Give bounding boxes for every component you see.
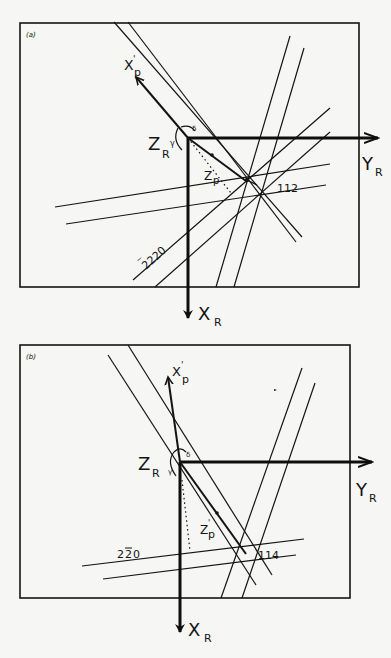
svg-text:X: X xyxy=(188,619,200,640)
svg-text:Z: Z xyxy=(200,523,208,537)
panel-a-delta-label: δ xyxy=(192,125,196,133)
svg-text:2: 2 xyxy=(117,548,124,561)
panel-b-zp-dot xyxy=(215,511,219,515)
svg-text:0: 0 xyxy=(133,548,140,561)
panel-a-xp-vector xyxy=(136,77,188,138)
panel-b-delta-arc xyxy=(174,449,186,452)
panel-b-xr-label: X R xyxy=(188,619,212,645)
svg-text:R: R xyxy=(204,632,212,645)
panel-a-zr-label: Z R xyxy=(148,133,170,161)
panel-b-dotted-line xyxy=(182,480,190,551)
panel-b-tag: (b) xyxy=(26,353,36,361)
panel-b-zr-label: Z R xyxy=(138,453,160,480)
panel-b-gamma-label: γ xyxy=(168,468,172,476)
panel-b-stray-mark xyxy=(274,389,277,391)
svg-text:': ' xyxy=(133,54,135,64)
svg-text:R: R xyxy=(375,166,383,179)
svg-text:p: p xyxy=(182,373,189,386)
panel-b-delta-label: δ xyxy=(186,451,190,459)
panel-b-reflection-114: 114 xyxy=(258,549,279,562)
svg-text:p: p xyxy=(213,175,219,186)
panel-a-xr-label: X R xyxy=(198,303,222,329)
panel-b-yr-label: Y R xyxy=(355,479,377,505)
svg-text:Y: Y xyxy=(361,153,374,174)
svg-text:Y: Y xyxy=(355,479,368,500)
panel-a-xp-label: X ' p xyxy=(124,54,141,79)
panel-b-reflection-220: 2 2 0 xyxy=(117,548,140,561)
panel-b-xp-label: X ' p xyxy=(172,360,189,386)
svg-text:Z: Z xyxy=(148,133,160,154)
svg-text:Z: Z xyxy=(138,453,150,474)
svg-text:R: R xyxy=(369,492,377,505)
panel-a-zp-dot xyxy=(210,153,214,157)
panel-a-kikuchi-lines xyxy=(55,22,330,287)
svg-text:R: R xyxy=(162,148,170,161)
svg-text:X: X xyxy=(172,364,181,379)
panel-a-yr-label: Y R xyxy=(361,153,383,179)
panel-a-reflection-112: 112 xyxy=(277,182,298,195)
panel-a-gamma-label: γ xyxy=(170,139,175,148)
svg-text:': ' xyxy=(208,519,210,528)
panel-a-reflection-220: ‾ 2 220 xyxy=(136,241,169,273)
svg-text:': ' xyxy=(181,360,183,370)
svg-text:p: p xyxy=(208,528,215,541)
svg-text:X: X xyxy=(198,303,210,324)
panel-a-tag: (a) xyxy=(26,31,36,39)
svg-text:p: p xyxy=(134,66,141,79)
panel-b-zp-label: Z ' p xyxy=(200,519,215,541)
svg-text:Z: Z xyxy=(204,169,212,183)
svg-text:R: R xyxy=(214,316,222,329)
svg-text:2: 2 xyxy=(125,548,132,561)
panel-b: (b) γ δ X ' p Z R xyxy=(20,345,377,645)
diagram-canvas: (a) γ δ xyxy=(0,0,391,658)
panel-a: (a) γ δ xyxy=(20,22,383,329)
svg-text:R: R xyxy=(152,467,160,480)
